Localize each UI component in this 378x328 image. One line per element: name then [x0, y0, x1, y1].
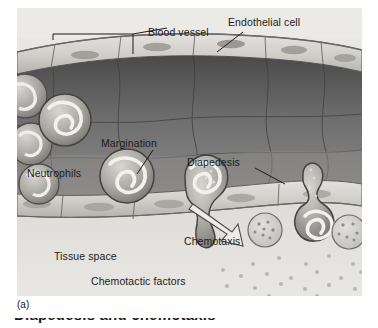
label-chemotactic-factors: Chemotactic factors	[91, 276, 186, 287]
label-diapedesis: Diapedesis	[187, 157, 240, 168]
label-blood-vessel: Blood vessel	[148, 27, 209, 38]
figure-caption-text: Diapedesis and chemotaxis	[14, 318, 244, 322]
figure-caption-clipped: Diapedesis and chemotaxis	[14, 318, 244, 328]
panel-label: (a)	[17, 299, 29, 310]
illustration-plate: Blood vessel Endothelial cell Marginatio…	[17, 8, 362, 296]
label-tissue-space: Tissue space	[54, 251, 117, 262]
label-neutrophils: Neutrophils	[27, 168, 81, 179]
label-margination: Margination	[101, 138, 157, 149]
label-endothelial-cell: Endothelial cell	[228, 17, 300, 28]
figure-panel: Blood vessel Endothelial cell Marginatio…	[0, 0, 378, 328]
neutrophil-margination	[100, 149, 154, 203]
label-chemotaxis: Chemotaxis	[184, 236, 240, 247]
